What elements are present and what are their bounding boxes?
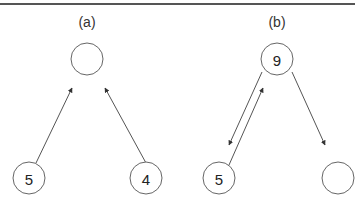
node-a-left: 5 (13, 162, 45, 194)
panel-labels: (a)(b) (78, 14, 285, 30)
panel-label: (a) (78, 14, 95, 30)
node-value: 4 (142, 171, 150, 188)
node-circle (322, 162, 354, 194)
arrow-a-left-to-a-root (36, 88, 72, 163)
arrow-b-root-to-b-left (229, 72, 262, 145)
node-b-root: 9 (261, 43, 293, 75)
node-value: 9 (273, 52, 281, 69)
node-b-right (322, 162, 354, 194)
node-a-root (71, 43, 103, 75)
node-value: 5 (215, 171, 223, 188)
edges (36, 72, 325, 165)
node-circle (71, 43, 103, 75)
arrow-b-left-to-b-root (229, 88, 263, 165)
node-a-right: 4 (130, 162, 162, 194)
node-value: 5 (25, 171, 33, 188)
node-b-left: 5 (203, 162, 235, 194)
arrow-a-right-to-a-root (105, 88, 146, 163)
nodes: 5495 (13, 43, 354, 194)
arrow-b-root-to-b-right (292, 72, 325, 145)
panel-label: (b) (268, 14, 285, 30)
tree-diagram: 5495 (a)(b) (0, 0, 359, 209)
